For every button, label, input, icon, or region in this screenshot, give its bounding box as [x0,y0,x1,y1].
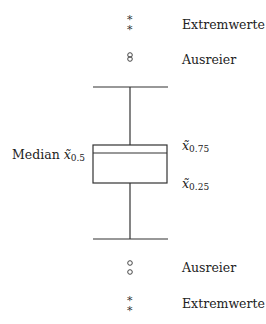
median-word: Median [12,147,60,162]
q75-symbol: x̃ [182,138,189,153]
extreme-marker-bottom-2: * [127,305,133,316]
outlier-marker-bottom-2 [128,270,133,275]
label-median: Median x̃0.5 [12,149,85,163]
extreme-marker-top-2: * [127,24,133,35]
label-outlier-bottom: Ausreier [182,262,236,275]
label-extreme-top: Extremwerte [182,19,265,32]
label-q75: x̃0.75 [182,140,209,154]
box-iqr [93,145,167,183]
q25-symbol: x̃ [182,176,189,191]
outlier-marker-bottom-1 [128,261,133,266]
label-extreme-bottom: Extremwerte [182,298,265,311]
label-q25: x̃0.25 [182,178,209,192]
q75-subscript: 0.75 [189,144,209,154]
median-subscript: 0.5 [71,153,85,163]
label-outlier-top: Ausreier [182,54,236,67]
median-symbol: x̃ [64,147,71,162]
q25-subscript: 0.25 [189,182,209,192]
